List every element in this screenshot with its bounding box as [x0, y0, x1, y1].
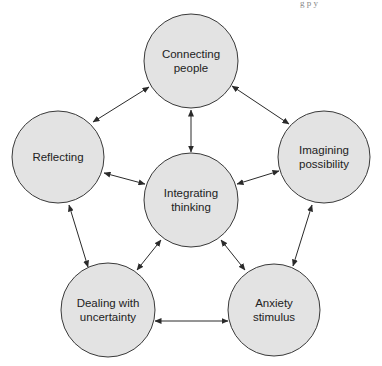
node-circle	[278, 111, 370, 203]
node-circle	[61, 263, 155, 357]
node-label: possibility	[299, 158, 349, 170]
double-arrow-reflecting-integrating	[104, 173, 145, 184]
node-circle	[144, 14, 238, 108]
node-circle	[228, 264, 320, 356]
node-dealing: Dealing withuncertainty	[61, 263, 155, 357]
node-label: Dealing with	[77, 297, 140, 309]
node-connecting: Connectingpeople	[144, 14, 238, 108]
running-head-fragment: g p y	[300, 0, 319, 8]
node-label: Imagining	[299, 144, 349, 156]
node-anxiety: Anxietystimulus	[228, 264, 320, 356]
cycle-diagram: g p y ConnectingpeopleReflectingImaginin…	[0, 0, 382, 366]
node-circle	[144, 153, 238, 247]
double-arrow-reflecting-dealing	[69, 205, 88, 267]
node-reflecting: Reflecting	[12, 111, 104, 203]
node-integrating: Integratingthinking	[144, 153, 238, 247]
node-label: Connecting	[162, 48, 220, 60]
node-label: Anxiety	[255, 297, 293, 309]
double-arrow-reflecting-connecting	[93, 87, 149, 122]
node-label: stimulus	[253, 311, 295, 323]
double-arrow-integrating-imagining	[237, 171, 279, 184]
node-label: Reflecting	[32, 151, 83, 163]
node-label: thinking	[171, 201, 211, 213]
node-label: people	[174, 62, 209, 74]
node-label: Integrating	[164, 187, 218, 199]
node-imagining: Imaginingpossibility	[278, 111, 370, 203]
double-arrow-connecting-imagining	[232, 86, 289, 124]
node-label: uncertainty	[80, 311, 137, 323]
double-arrow-imagining-anxiety	[293, 205, 312, 266]
nodes-layer: ConnectingpeopleReflectingImaginingpossi…	[12, 14, 370, 357]
double-arrow-integrating-dealing	[137, 240, 161, 270]
double-arrow-integrating-anxiety	[221, 240, 245, 270]
